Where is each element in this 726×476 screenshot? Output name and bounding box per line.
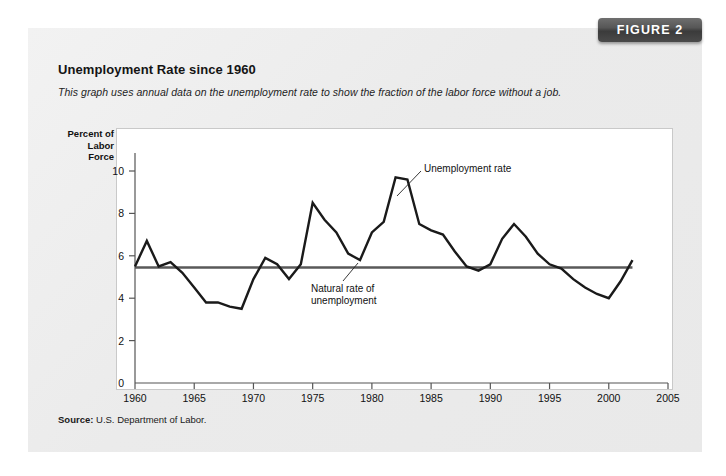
svg-text:8: 8 (118, 207, 124, 219)
annotation-natural-rate-line1: Natural rate of (311, 283, 374, 294)
svg-text:1995: 1995 (538, 392, 562, 404)
svg-text:1975: 1975 (301, 392, 325, 404)
svg-text:1990: 1990 (479, 392, 503, 404)
svg-text:6: 6 (118, 250, 124, 262)
svg-text:1970: 1970 (242, 392, 266, 404)
svg-text:1985: 1985 (419, 392, 443, 404)
annotation-natural-rate: Natural rate of unemployment (311, 283, 377, 307)
svg-text:2005: 2005 (656, 392, 680, 404)
unemployment-rate-series (135, 177, 632, 308)
source-label: Source: (58, 414, 93, 425)
svg-text:1960: 1960 (123, 392, 147, 404)
svg-text:0: 0 (118, 377, 124, 389)
svg-text:1980: 1980 (360, 392, 384, 404)
figure-page: FIGURE 2 Unemployment Rate since 1960 Th… (0, 0, 726, 476)
chart-tick-labels: 0246810196019651970197519801985199019952… (112, 165, 680, 404)
annotation-unemployment-rate: Unemployment rate (424, 163, 511, 175)
svg-text:2000: 2000 (597, 392, 621, 404)
svg-text:4: 4 (118, 292, 124, 304)
svg-text:10: 10 (112, 165, 124, 177)
source-value: U.S. Department of Labor. (93, 414, 206, 425)
chart-axes (129, 153, 668, 389)
unemployment-line-chart: 0246810196019651970197519801985199019952… (0, 0, 726, 476)
svg-text:1965: 1965 (183, 392, 207, 404)
svg-text:2: 2 (118, 335, 124, 347)
source-note: Source: U.S. Department of Labor. (58, 414, 206, 425)
annotation-natural-rate-line2: unemployment (311, 295, 377, 306)
